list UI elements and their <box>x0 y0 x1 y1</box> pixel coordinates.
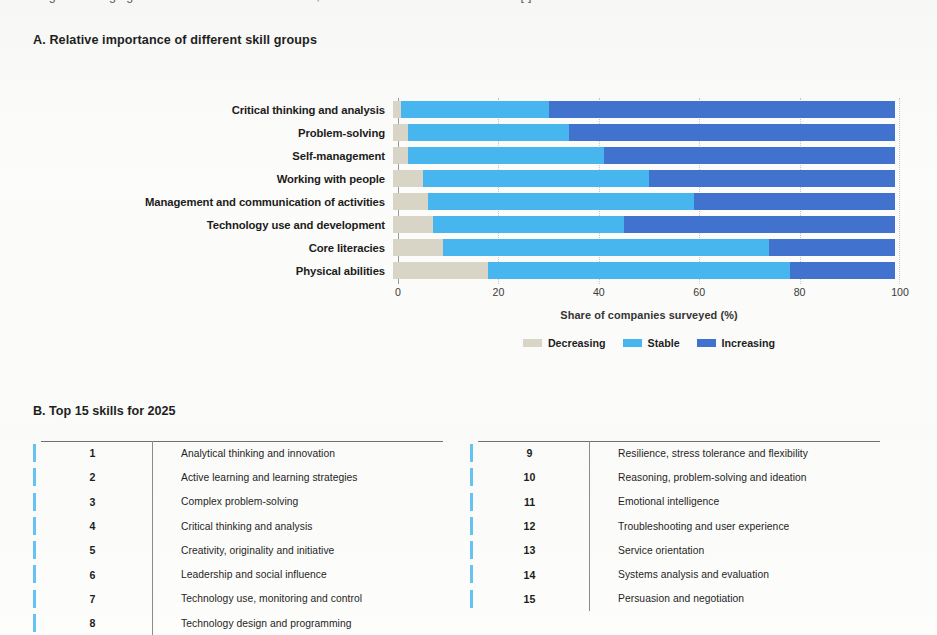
row-marker-tick <box>470 565 473 583</box>
bar-row: Critical thinking and analysis <box>0 98 937 121</box>
legend-label: Increasing <box>722 337 775 349</box>
skill-row: 12Troubleshooting and user experience <box>470 514 907 538</box>
skill-row: 6Leadership and social influence <box>33 562 470 586</box>
row-marker-tick <box>33 541 36 559</box>
skill-row: 8Technology design and programming <box>33 611 470 635</box>
skill-rank: 7 <box>33 593 152 605</box>
skill-name: Active learning and learning strategies <box>153 472 358 483</box>
legend-label: Decreasing <box>548 337 606 349</box>
bar-row: Management and communication of activiti… <box>0 190 937 213</box>
legend-item: Stable <box>623 337 680 349</box>
right-column-rows: 9Resilience, stress tolerance and flexib… <box>470 441 907 611</box>
skill-name: Technology use, monitoring and control <box>153 593 362 604</box>
bar-segment-increasing <box>624 216 895 233</box>
bar-track <box>393 262 895 279</box>
skill-rank: 2 <box>33 471 152 483</box>
skill-name: Resilience, stress tolerance and flexibi… <box>590 448 808 459</box>
x-tick-label: 0 <box>395 286 401 298</box>
bar-segment-stable <box>401 101 549 118</box>
row-marker-tick <box>33 493 36 511</box>
bar-category-label: Management and communication of activiti… <box>0 196 393 208</box>
bar-segment-decreasing <box>393 147 408 164</box>
skill-row: 7Technology use, monitoring and control <box>33 587 470 611</box>
skill-row: 10Reasoning, problem-solving and ideatio… <box>470 465 907 489</box>
x-tick-label: 20 <box>492 286 504 298</box>
skill-row: 1Analytical thinking and innovation <box>33 441 470 465</box>
bar-segment-stable <box>423 170 649 187</box>
caption-ghost-text: Figure Changing skill demands across ind… <box>38 0 532 3</box>
panel-a-title: A. Relative importance of different skil… <box>33 33 317 47</box>
bar-segment-decreasing <box>393 239 443 256</box>
row-marker-tick <box>470 541 473 559</box>
bar-category-label: Problem-solving <box>0 127 393 139</box>
bar-category-label: Core literacies <box>0 242 393 254</box>
skill-row: 11Emotional intelligence <box>470 490 907 514</box>
skill-rank: 10 <box>470 471 589 483</box>
bar-segment-decreasing <box>393 101 401 118</box>
top-skills-table: 1Analytical thinking and innovation2Acti… <box>33 441 908 635</box>
row-marker-tick <box>470 590 473 608</box>
figure-page: Figure Changing skill demands across ind… <box>0 0 937 635</box>
bar-category-label: Working with people <box>0 173 393 185</box>
left-column-rows: 1Analytical thinking and innovation2Acti… <box>33 441 470 635</box>
bar-segment-increasing <box>604 147 895 164</box>
skill-rank: 5 <box>33 544 152 556</box>
bar-segment-decreasing <box>393 193 428 210</box>
skill-row: 14Systems analysis and evaluation <box>470 562 907 586</box>
bar-segment-increasing <box>569 124 895 141</box>
skill-name: Systems analysis and evaluation <box>590 569 769 580</box>
bar-segment-increasing <box>694 193 895 210</box>
cropped-caption-strip: Figure Changing skill demands across ind… <box>0 0 937 14</box>
skill-name: Troubleshooting and user experience <box>590 521 789 532</box>
x-tick-label: 80 <box>794 286 806 298</box>
skill-row: 2Active learning and learning strategies <box>33 465 470 489</box>
skill-rank: 9 <box>470 447 589 459</box>
skill-name: Complex problem-solving <box>153 496 298 507</box>
top-skills-left-column: 1Analytical thinking and innovation2Acti… <box>33 441 470 635</box>
skill-name: Service orientation <box>590 545 704 556</box>
bar-segment-decreasing <box>393 124 408 141</box>
row-marker-tick <box>470 444 473 462</box>
bar-segment-increasing <box>790 262 895 279</box>
bar-row: Core literacies <box>0 236 937 259</box>
bar-track <box>393 193 895 210</box>
skill-groups-stacked-bar-chart: Critical thinking and analysisProblem-so… <box>0 98 937 298</box>
chart-legend: DecreasingStableIncreasing <box>398 337 900 349</box>
skill-rank: 8 <box>33 617 152 629</box>
bar-segment-stable <box>443 239 769 256</box>
top-skills-right-column: 9Resilience, stress tolerance and flexib… <box>470 441 907 635</box>
skill-rank: 13 <box>470 544 589 556</box>
bar-segment-stable <box>408 147 604 164</box>
bar-row: Technology use and development <box>0 213 937 236</box>
skill-name: Analytical thinking and innovation <box>153 448 335 459</box>
skill-name: Emotional intelligence <box>590 496 719 507</box>
bar-row-list: Critical thinking and analysisProblem-so… <box>0 98 937 282</box>
bar-track <box>393 147 895 164</box>
skill-row: 15Persuasion and negotiation <box>470 587 907 611</box>
row-marker-tick <box>470 468 473 486</box>
bar-segment-decreasing <box>393 262 488 279</box>
bar-segment-stable <box>488 262 789 279</box>
x-axis-title: Share of companies surveyed (%) <box>398 309 900 321</box>
skill-row: 4Critical thinking and analysis <box>33 514 470 538</box>
skill-name: Persuasion and negotiation <box>590 593 744 604</box>
row-marker-tick <box>33 590 36 608</box>
row-marker-tick <box>33 517 36 535</box>
legend-swatch-increasing <box>697 339 716 347</box>
bar-track <box>393 101 895 118</box>
bar-segment-increasing <box>649 170 895 187</box>
skill-row: 5Creativity, originality and initiative <box>33 538 470 562</box>
row-marker-tick <box>33 468 36 486</box>
bar-segment-increasing <box>549 101 895 118</box>
bar-segment-stable <box>428 193 694 210</box>
row-marker-tick <box>33 565 36 583</box>
skill-rank: 3 <box>33 496 152 508</box>
bar-row: Working with people <box>0 167 937 190</box>
bar-segment-increasing <box>769 239 895 256</box>
legend-label: Stable <box>648 337 680 349</box>
legend-item: Decreasing <box>523 337 606 349</box>
panel-b-title: B. Top 15 skills for 2025 <box>33 404 176 418</box>
x-tick-label: 40 <box>593 286 605 298</box>
skill-name: Technology design and programming <box>153 618 352 629</box>
row-marker-tick <box>470 517 473 535</box>
